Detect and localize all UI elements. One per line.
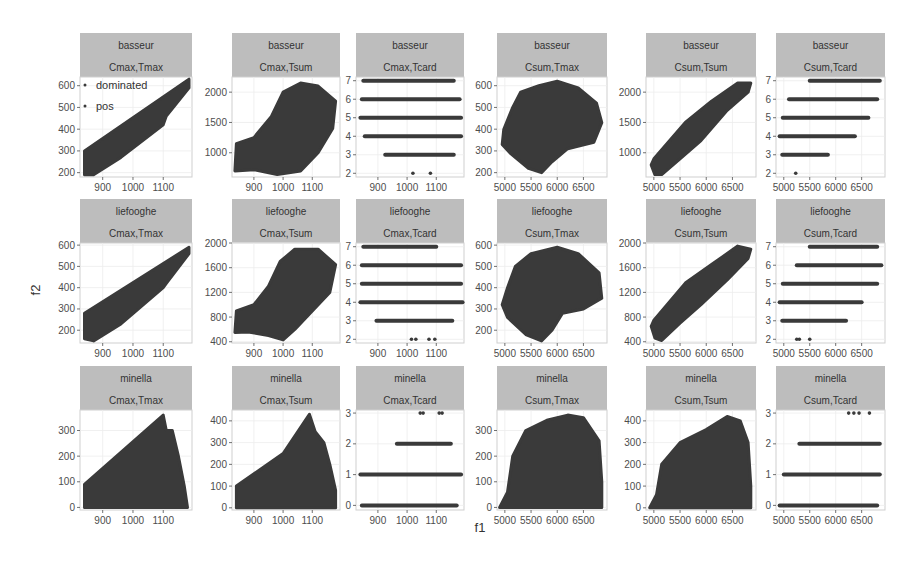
y-tick-label: 300 <box>58 425 75 436</box>
x-tick-label: 5000 <box>643 348 666 359</box>
facet-panel-basseur-csum-tsum: basseurCsum,Tsum100015002000500055006000… <box>619 33 756 193</box>
y-tick-label: 2000 <box>619 238 642 249</box>
x-tick-label: 5500 <box>520 182 543 193</box>
x-tick-label: 900 <box>246 348 263 359</box>
strip-label-col: Csum,Tcard <box>804 395 857 406</box>
y-tick-label: 2 <box>765 334 771 345</box>
y-tick-label: 600 <box>58 80 75 91</box>
strip-label-row: basseur <box>534 40 570 51</box>
x-tick-label: 5500 <box>669 515 692 526</box>
y-tick-label: 200 <box>58 167 75 178</box>
data-point <box>794 171 798 175</box>
x-tick-label: 6500 <box>851 348 874 359</box>
x-tick-label: 5000 <box>643 515 666 526</box>
strip-label-row: basseur <box>683 40 719 51</box>
strip-label-row: liefooghe <box>116 206 157 217</box>
x-tick-label: 1100 <box>302 348 324 359</box>
y-tick-label: 0 <box>69 502 75 513</box>
strip-label-col: Cmax,Tcard <box>383 395 436 406</box>
x-tick-label: 5000 <box>494 348 517 359</box>
plot-area <box>356 410 464 510</box>
y-tick-label: 6 <box>765 94 771 105</box>
x-tick-label: 900 <box>246 182 263 193</box>
strip-label-row: liefooghe <box>266 206 307 217</box>
strip-label-row: basseur <box>268 40 304 51</box>
y-tick-label: 0 <box>221 502 227 513</box>
data-point <box>427 337 431 341</box>
y-tick-label: 2000 <box>205 238 228 249</box>
strip-label-col: Csum,Tmax <box>525 228 579 239</box>
x-tick-label: 1000 <box>396 182 419 193</box>
faceted-scatter-figure: basseurCmax,Tmax200300400500600900100011… <box>0 0 922 566</box>
data-point <box>847 411 851 415</box>
y-tick-label: 300 <box>475 303 492 314</box>
strip-label-row: liefooghe <box>810 206 851 217</box>
y-tick-label: 400 <box>58 282 75 293</box>
y-tick-label: 6 <box>345 260 351 271</box>
y-tick-label: 5 <box>345 278 351 289</box>
y-tick-label: 3 <box>345 149 351 160</box>
strip-label-col: Cmax,Tmax <box>109 228 163 239</box>
y-tick-label: 400 <box>58 124 75 135</box>
strip-label-col: Cmax,Tcard <box>383 62 436 73</box>
strip-label-col: Cmax,Tsum <box>260 395 313 406</box>
y-tick-label: 3 <box>765 149 771 160</box>
data-point <box>410 337 414 341</box>
y-tick-label: 200 <box>58 325 75 336</box>
y-tick-label: 800 <box>210 312 227 323</box>
y-tick-label: 100 <box>58 476 75 487</box>
x-tick-label: 900 <box>370 348 387 359</box>
y-tick-label: 500 <box>58 102 75 113</box>
y-tick-label: 2 <box>765 438 771 449</box>
x-tick-label: 1000 <box>122 182 145 193</box>
data-point <box>440 411 444 415</box>
x-tick-label: 5500 <box>799 515 822 526</box>
y-tick-label: 500 <box>58 261 75 272</box>
y-tick-label: 2000 <box>619 87 642 98</box>
facet-panel-basseur-cmax-tcard: basseurCmax,Tcard23456790010001100 <box>345 33 464 193</box>
y-tick-label: 200 <box>475 325 492 336</box>
x-tick-label: 6000 <box>695 515 718 526</box>
x-tick-label: 900 <box>94 515 111 526</box>
strip-label-row: liefooghe <box>532 206 573 217</box>
facet-panel-minella-csum-tmax: minellaCsum,Tmax010020030050005500600065… <box>475 366 607 526</box>
y-tick-label: 500 <box>475 102 492 113</box>
x-tick-label: 5000 <box>773 182 796 193</box>
y-tick-label: 2 <box>345 334 351 345</box>
x-tick-label: 1000 <box>272 515 295 526</box>
y-tick-label: 7 <box>345 75 351 86</box>
y-tick-label: 200 <box>210 459 227 470</box>
x-tick-label: 5500 <box>520 348 543 359</box>
data-point <box>429 171 433 175</box>
x-tick-label: 6500 <box>572 348 595 359</box>
y-tick-label: 100 <box>475 476 492 487</box>
strip-label-row: liefooghe <box>390 206 431 217</box>
data-point <box>857 411 861 415</box>
x-tick-label: 1000 <box>272 182 295 193</box>
y-tick-label: 2 <box>345 168 351 179</box>
x-tick-label: 6000 <box>695 182 718 193</box>
x-tick-label: 1100 <box>426 348 448 359</box>
x-tick-label: 5500 <box>669 348 692 359</box>
x-tick-label: 6000 <box>695 348 718 359</box>
strip-label-col: Csum,Tsum <box>675 395 728 406</box>
legend-key-icon <box>84 105 87 108</box>
strip-label-col: Cmax,Tmax <box>109 62 163 73</box>
y-tick-label: 2000 <box>205 87 228 98</box>
strip-label-row: minella <box>394 373 426 384</box>
y-tick-label: 0 <box>345 500 351 511</box>
y-tick-label: 2 <box>345 438 351 449</box>
y-tick-label: 400 <box>475 282 492 293</box>
y-tick-label: 100 <box>210 481 227 492</box>
y-tick-label: 400 <box>624 415 641 426</box>
facet-panel-basseur-cmax-tsum: basseurCmax,Tsum10001500200090010001100 <box>205 33 340 193</box>
data-point <box>868 411 872 415</box>
y-tick-label: 400 <box>210 336 227 347</box>
x-tick-label: 6000 <box>825 182 848 193</box>
x-tick-label: 1100 <box>152 348 174 359</box>
strip-label-col: Cmax,Tcard <box>383 228 436 239</box>
strip-label-col: Csum,Tsum <box>675 62 728 73</box>
y-tick-label: 5 <box>765 278 771 289</box>
x-tick-label: 900 <box>94 348 111 359</box>
y-tick-label: 500 <box>475 261 492 272</box>
